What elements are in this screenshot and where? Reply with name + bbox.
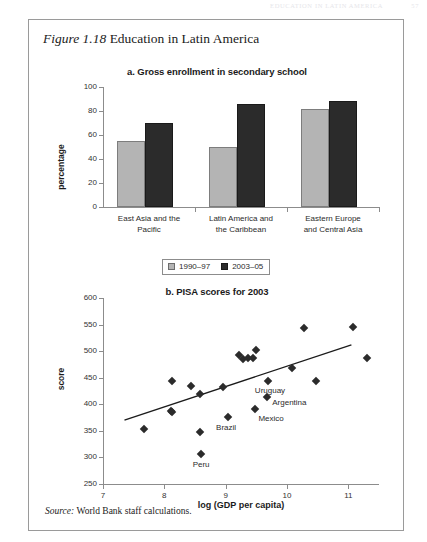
- chart-a-ytick-label: 20: [69, 178, 97, 187]
- bar-1-1: [237, 104, 265, 207]
- figure-number: Figure 1.18: [43, 31, 106, 46]
- legend-item-0[interactable]: 1990–97: [168, 262, 210, 271]
- chart-a-x-axis: [103, 207, 379, 208]
- page-number: 57: [411, 2, 419, 9]
- figure-title: Education in Latin America: [110, 31, 260, 46]
- chart-a-ytick-label: 100: [69, 82, 97, 91]
- bar-chart-panel-a: a. Gross enrollment in secondary school …: [29, 66, 405, 266]
- chart-b-xtick-label: 11: [336, 491, 360, 500]
- scatter-point-label-argentina: Argentina: [272, 398, 306, 407]
- chart-a-ytick: [99, 111, 103, 112]
- chart-b-x-axis: [103, 484, 379, 485]
- chart-a-group-separator: [195, 207, 196, 212]
- chart-b-xtick: [287, 484, 288, 489]
- chart-a-category-label: Latin America andthe Caribbean: [189, 214, 293, 235]
- page-header: EDUCATION IN LATIN AMERICA 57: [0, 2, 427, 14]
- legend-item-label: 1990–97: [179, 262, 210, 271]
- chart-a-ytick: [99, 87, 103, 88]
- chart-a-ytick-label: 60: [69, 130, 97, 139]
- chart-a-x-axis-end-tick: [379, 207, 380, 212]
- chart-a-category-label: East Asia and thePacific: [97, 214, 201, 235]
- source-text: World Bank staff calculations.: [76, 506, 191, 516]
- chart-b-trendline: [103, 298, 379, 484]
- chart-b-xtick-label: 8: [152, 491, 176, 500]
- bar-1-0: [145, 123, 173, 207]
- chart-a-category-label-line: the Caribbean: [189, 225, 293, 236]
- chart-a-ytick-label: 80: [69, 106, 97, 115]
- chart-a-plot-area: 020406080100East Asia and thePacificLati…: [103, 87, 379, 207]
- bar-0-2: [301, 109, 329, 207]
- chart-a-category-label-line: Pacific: [97, 225, 201, 236]
- legend-item-1[interactable]: 2003–05: [221, 262, 263, 271]
- chart-b-xtick: [103, 484, 104, 489]
- chart-a-y-axis: [103, 87, 104, 207]
- chart-a-category-label-line: Eastern Europe: [281, 214, 385, 225]
- legend-swatch-icon-1: [221, 263, 228, 270]
- scatter-point-label-peru: Peru: [193, 460, 210, 469]
- figure-caption: Figure 1.18 Education in Latin America: [43, 31, 259, 47]
- chart-b-ytick-label: 250: [69, 479, 97, 488]
- chart-b-xtick-label: 10: [275, 491, 299, 500]
- scatter-point-label-mexico: Mexico: [258, 414, 283, 423]
- chart-b-xtick-label: 7: [91, 491, 115, 500]
- chart-a-legend: 1990–972003–05: [162, 259, 270, 275]
- chart-a-category-label-line: East Asia and the: [97, 214, 201, 225]
- figure-container: Figure 1.18 Education in Latin America a…: [28, 19, 404, 531]
- scatter-point-label-brazil: Brazil: [216, 423, 236, 432]
- chart-a-group-separator: [287, 207, 288, 212]
- chart-b-ytick-label: 450: [69, 373, 97, 382]
- chart-a-ylabel: percentage: [56, 127, 66, 207]
- chart-b-ylabel: score: [56, 339, 66, 419]
- chart-b-ytick-label: 500: [69, 346, 97, 355]
- chart-a-ytick-label: 40: [69, 154, 97, 163]
- source-label: Source:: [45, 506, 74, 516]
- figure-source: Source: World Bank staff calculations.: [45, 506, 192, 516]
- chart-b-ytick-label: 350: [69, 426, 97, 435]
- chart-a-ytick: [99, 183, 103, 184]
- chart-a-ytick: [99, 207, 103, 208]
- legend-item-label: 2003–05: [232, 262, 263, 271]
- chart-b-ytick-label: 550: [69, 320, 97, 329]
- chart-b-ytick-label: 600: [69, 293, 97, 302]
- chart-b-plot-area: 2503003504004505005506007891011PeruBrazi…: [103, 298, 379, 484]
- chart-b-xtick: [226, 484, 227, 489]
- chart-b-xtick-label: 9: [214, 491, 238, 500]
- scatter-chart-panel-b: b. PISA scores for 2003 score 2503003504…: [29, 274, 405, 504]
- chart-a-ytick: [99, 135, 103, 136]
- chart-b-ytick-label: 400: [69, 399, 97, 408]
- chart-b-ytick-label: 300: [69, 452, 97, 461]
- legend-swatch-icon-0: [168, 263, 175, 270]
- chart-a-ytick-label: 0: [69, 202, 97, 211]
- chart-a-ytick: [99, 159, 103, 160]
- bar-1-2: [329, 101, 357, 207]
- scatter-point-label-uruguay: Uruguay: [255, 386, 285, 395]
- chart-a-category-label-line: and Central Asia: [281, 225, 385, 236]
- bar-0-0: [117, 141, 145, 207]
- chart-a-category-label: Eastern Europeand Central Asia: [281, 214, 385, 235]
- chart-a-category-label-line: Latin America and: [189, 214, 293, 225]
- bar-0-1: [209, 147, 237, 207]
- chart-b-xtick: [164, 484, 165, 489]
- chart-b-xtick: [348, 484, 349, 489]
- chart-a-title: a. Gross enrollment in secondary school: [29, 66, 405, 77]
- running-head: EDUCATION IN LATIN AMERICA: [270, 2, 383, 9]
